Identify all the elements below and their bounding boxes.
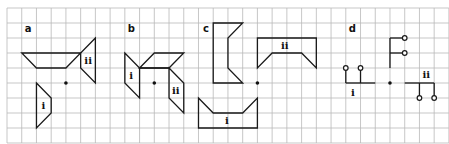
open-circle-icon [358,66,363,71]
open-circle-icon [432,96,437,101]
panel-a: aiii [22,23,96,128]
shape-label: ii [422,69,430,80]
centre-of-rotation-dot [64,81,68,85]
panel-label: b [128,23,135,34]
shape-label: i [42,100,46,111]
centre-of-rotation-dot [388,81,392,85]
shape-label: i [129,70,133,81]
shape-label: ii [281,40,289,51]
panel-label: d [349,23,356,34]
shape-label: i [351,87,355,98]
panel-label: a [25,23,32,34]
shape-label: ii [172,85,180,96]
open-circle-icon [417,96,422,101]
open-circle-icon [343,66,348,71]
open-circle-icon [402,51,407,56]
panel-label: c [203,23,209,34]
figures: aiiibiiiciiidiii [22,23,437,128]
shape-label: ii [84,55,92,66]
rotation-diagram: aiiibiiiciiidiii [0,0,449,144]
open-circle-icon [402,36,407,41]
centre-of-rotation-dot [153,81,157,85]
shape-shape-top [140,53,184,68]
centre-of-rotation-dot [256,81,260,85]
shape-label: i [225,115,229,126]
